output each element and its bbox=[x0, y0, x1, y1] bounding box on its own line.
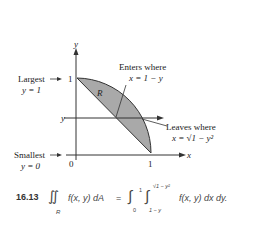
enters-formula: x = 1 − y bbox=[129, 73, 163, 83]
x-axis-arrow-icon bbox=[179, 153, 186, 158]
double-integral-region: R bbox=[56, 207, 60, 217]
outer-upper-limit: 1 bbox=[139, 185, 142, 195]
smallest-value: y = 0 bbox=[21, 161, 40, 171]
x-axis-label: x bbox=[187, 150, 191, 160]
smallest-label: Smallest bbox=[14, 150, 45, 160]
region-label: R bbox=[97, 88, 103, 98]
outer-lower-limit: 0 bbox=[133, 205, 136, 215]
inner-integral-symbol: ∫ bbox=[145, 188, 149, 203]
enters-label: Enters where bbox=[119, 62, 166, 72]
leaves-formula: x = √1 − y² bbox=[172, 133, 213, 143]
rhs-integrand: f(x, y) dx dy. bbox=[179, 193, 227, 203]
double-integral-symbol: ∬ bbox=[48, 189, 59, 203]
y-axis-arrow-icon bbox=[74, 48, 79, 55]
y-axis-label: y bbox=[74, 39, 78, 49]
smallest-arrow-icon bbox=[57, 153, 62, 157]
leaves-label: Leaves where bbox=[166, 122, 216, 132]
x-tick-1: 1 bbox=[148, 159, 153, 169]
horizontal-line-arrow-icon bbox=[157, 116, 164, 121]
lhs-integrand: f(x, y) dA bbox=[68, 193, 104, 203]
y-marker: y bbox=[61, 113, 65, 123]
region-r bbox=[77, 78, 151, 153]
largest-arrow-icon bbox=[57, 77, 62, 81]
equals-sign: = bbox=[116, 193, 121, 203]
inner-upper-limit: √1 − y² bbox=[153, 181, 170, 191]
largest-label: Largest bbox=[18, 74, 45, 84]
equation-number: 16.13 bbox=[16, 192, 39, 202]
inner-lower-limit: 1 − y bbox=[149, 205, 161, 215]
largest-value: y = 1 bbox=[22, 85, 41, 95]
y-tick-1: 1 bbox=[68, 74, 73, 84]
x-tick-0: 0 bbox=[69, 159, 74, 169]
outer-integral-symbol: ∫ bbox=[128, 188, 132, 203]
